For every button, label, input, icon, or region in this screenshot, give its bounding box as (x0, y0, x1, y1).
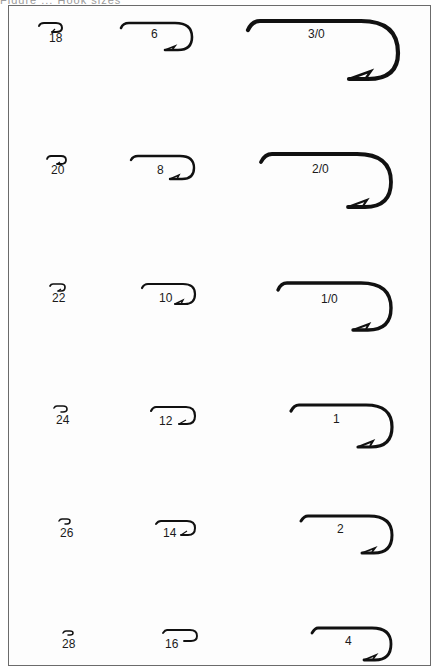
hook-icon (130, 154, 210, 194)
figure-caption-fragment: Figure ... Hook sizes (0, 0, 436, 4)
hook-size-label: 14 (163, 526, 176, 540)
hook-icon (120, 21, 200, 61)
hook-size-label: 1/0 (321, 292, 338, 306)
hook-size-label: 16 (165, 637, 178, 651)
hook-size-label: 10 (159, 291, 172, 305)
hook-icon (299, 514, 429, 564)
hook-icon (276, 281, 426, 341)
hook-size-label: 28 (62, 637, 75, 651)
hook-size-label: 8 (157, 163, 164, 177)
hook-size-label: 20 (51, 163, 64, 177)
hook-icon (141, 283, 211, 313)
hook-icon (310, 626, 420, 671)
hook-icon (289, 403, 429, 463)
hook-size-label: 26 (60, 526, 73, 540)
hook-size-label: 12 (159, 414, 172, 428)
hook-icon (259, 152, 419, 222)
hook-size-label: 2 (337, 522, 344, 536)
hook-size-label: 4 (345, 634, 352, 648)
hook-icon (246, 18, 416, 88)
hook-size-label: 6 (151, 27, 158, 41)
hook-size-label: 1 (333, 412, 340, 426)
hook-size-label: 22 (52, 291, 65, 305)
hook-size-label: 2/0 (312, 162, 329, 176)
hook-size-label: 3/0 (308, 27, 325, 41)
hook-size-label: 18 (49, 31, 62, 45)
hook-size-label: 24 (56, 413, 69, 427)
